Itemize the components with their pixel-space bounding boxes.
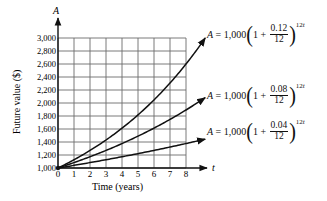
x-axis-symbol: t — [212, 162, 215, 173]
exponent-var: t — [303, 21, 305, 29]
formula-one-plus: 1 + — [253, 29, 266, 40]
curve-rate-004 — [58, 139, 205, 168]
right-paren-icon: ) — [289, 120, 296, 143]
x-tick-label: 0 — [56, 169, 61, 179]
formula-rate-008: A = 1,000 (1 + 0.0812 )12t — [207, 85, 305, 106]
formula-eq: = 1,000 — [216, 90, 247, 101]
x-tick-label: 7 — [168, 169, 173, 179]
formula-lhs: A — [207, 90, 213, 101]
left-paren-icon: ( — [246, 120, 253, 143]
formula-eq: = 1,000 — [216, 29, 247, 40]
fraction-denominator: 12 — [274, 132, 284, 142]
fraction-denominator: 12 — [274, 96, 284, 106]
x-tick-label: 4 — [120, 169, 125, 179]
y-axis-symbol: A — [52, 5, 60, 16]
fraction-denominator: 12 — [274, 35, 284, 45]
y-tick-labels: 1,0001,2001,4001,6001,8002,0002,2002,400… — [37, 33, 56, 173]
formula-exponent: 12t — [296, 118, 305, 126]
x-tick-labels: 012345678 — [56, 169, 189, 179]
y-tick-label: 2,800 — [37, 46, 56, 56]
exponent-var: t — [303, 118, 305, 126]
exponent-var: t — [303, 82, 305, 90]
y-tick-label: 2,400 — [37, 72, 56, 82]
formula-one-plus: 1 + — [253, 126, 266, 137]
y-tick-label: 2,000 — [37, 98, 56, 108]
formula-exponent: 12t — [296, 82, 305, 90]
grid — [58, 38, 186, 168]
x-tick-label: 2 — [88, 169, 93, 179]
y-axis-label: Future value ($) — [11, 70, 23, 134]
formula-rate-004: A = 1,000 (1 + 0.0412 )12t — [207, 121, 305, 142]
formula-eq: = 1,000 — [216, 126, 247, 137]
y-tick-label: 2,200 — [37, 85, 56, 95]
formula-rate-012: A = 1,000 (1 + 0.1212 )12t — [207, 24, 305, 45]
axes — [58, 18, 207, 168]
left-paren-icon: ( — [246, 23, 253, 46]
y-tick-label: 3,000 — [37, 33, 56, 43]
formula-one-plus: 1 + — [253, 90, 266, 101]
x-tick-label: 6 — [152, 169, 157, 179]
x-tick-label: 5 — [136, 169, 141, 179]
x-tick-label: 3 — [104, 169, 109, 179]
y-tick-label: 1,600 — [37, 124, 56, 134]
curve-rate-008 — [58, 98, 205, 168]
y-tick-label: 1,800 — [37, 111, 56, 121]
exponent-coef: 12 — [296, 21, 303, 29]
formula-exponent: 12t — [296, 21, 305, 29]
formula-fraction: 0.1212 — [270, 24, 289, 45]
left-paren-icon: ( — [246, 84, 253, 107]
right-paren-icon: ) — [289, 84, 296, 107]
y-tick-label: 1,000 — [37, 163, 56, 173]
x-axis-label: Time (years) — [92, 181, 143, 193]
x-tick-label: 1 — [72, 169, 77, 179]
formula-fraction: 0.0412 — [270, 121, 289, 142]
y-tick-label: 2,600 — [37, 59, 56, 69]
formula-fraction: 0.0812 — [270, 85, 289, 106]
exponent-coef: 12 — [296, 82, 303, 90]
y-tick-label: 1,200 — [37, 150, 56, 160]
right-paren-icon: ) — [289, 23, 296, 46]
formula-lhs: A — [207, 126, 213, 137]
exponent-coef: 12 — [296, 118, 303, 126]
curves — [56, 38, 205, 170]
x-tick-label: 8 — [184, 169, 189, 179]
y-tick-label: 1,400 — [37, 137, 56, 147]
formula-lhs: A — [207, 29, 213, 40]
